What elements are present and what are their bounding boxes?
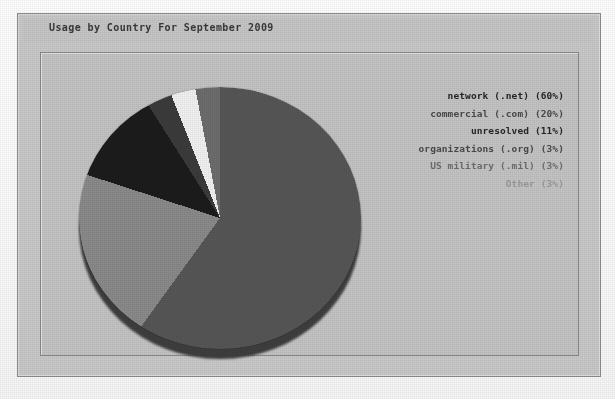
legend-item-organizations: organizations (.org) (3%) [318, 140, 564, 158]
legend-label-network: network (.net) (60%) [448, 90, 564, 101]
legend-item-other: Other (3%) [318, 175, 564, 193]
legend-item-unresolved: unresolved (11%) [318, 122, 564, 140]
scanned-page: Usage by Country For September 2009 netw… [0, 0, 615, 399]
legend-label-us-military: US military (.mil) (3%) [430, 160, 564, 171]
report-title-bar: Usage by Country For September 2009 [23, 19, 592, 41]
legend-label-commercial: commercial (.com) (20%) [430, 108, 564, 119]
legend-label-other: Other (3%) [506, 178, 564, 189]
legend-label-unresolved: unresolved (11%) [471, 125, 564, 136]
chart-legend: network (.net) (60%) commercial (.com) (… [318, 87, 564, 192]
legend-item-commercial: commercial (.com) (20%) [318, 105, 564, 123]
report-panel: Usage by Country For September 2009 netw… [17, 13, 601, 377]
legend-item-us-military: US military (.mil) (3%) [318, 157, 564, 175]
chart-frame: network (.net) (60%) commercial (.com) (… [40, 52, 579, 356]
page-title: Usage by Country For September 2009 [49, 22, 274, 33]
legend-label-organizations: organizations (.org) (3%) [419, 143, 565, 154]
legend-item-network: network (.net) (60%) [318, 87, 564, 105]
